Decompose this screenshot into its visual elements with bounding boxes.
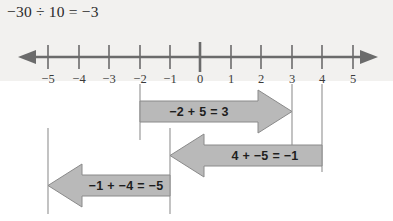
number-line-figure: −30 ÷ 10 = −3 xyxy=(0,0,393,221)
jump-label-1: −2 + 5 = 3 xyxy=(169,105,229,119)
jump-label-3: −1 + −4 = −5 xyxy=(89,179,164,193)
jump-label-2: 4 + −5 = −1 xyxy=(231,149,298,163)
